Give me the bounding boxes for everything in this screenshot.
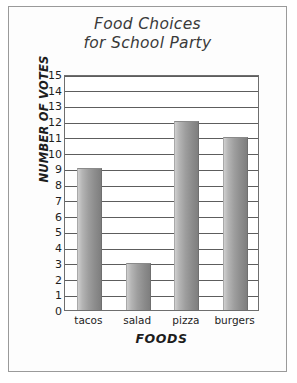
y-axis-tick-labels: 1514131211109876543210 [34, 75, 62, 311]
gridline [65, 76, 258, 77]
x-axis-tick-labels: tacossaladpizzaburgers [64, 314, 259, 330]
bar-salad [126, 263, 151, 310]
x-axis-title: FOODS [64, 331, 259, 346]
y-axis-tick-label: 6 [40, 210, 62, 223]
x-axis-tick-label: pizza [172, 314, 199, 326]
x-axis-tick-label: tacos [74, 314, 102, 326]
y-axis-tick-label: 7 [40, 194, 62, 207]
y-axis-tick-label: 8 [40, 179, 62, 192]
bar-burgers [223, 137, 248, 310]
gridline [65, 123, 258, 124]
y-axis-tick-label: 11 [40, 131, 62, 144]
y-axis-tick-label: 9 [40, 163, 62, 176]
y-axis-tick-label: 0 [40, 305, 62, 318]
bar-pizza [174, 121, 199, 310]
y-axis-tick-label: 12 [40, 116, 62, 129]
y-axis-tick-label: 1 [40, 289, 62, 302]
x-axis-tick-label: burgers [214, 314, 254, 326]
y-axis-tick-label: 3 [40, 257, 62, 270]
y-axis-tick-label: 5 [40, 226, 62, 239]
y-axis-tick-label: 15 [40, 69, 62, 82]
y-axis-tick-label: 14 [40, 84, 62, 97]
gridline [65, 91, 258, 92]
gridline [65, 107, 258, 108]
y-axis-tick-label: 4 [40, 242, 62, 255]
bar-tacos [77, 168, 102, 310]
y-axis-tick-label: 2 [40, 273, 62, 286]
plot-area [64, 75, 259, 311]
y-axis-tick-label: 13 [40, 100, 62, 113]
x-axis-tick-label: salad [123, 314, 151, 326]
worksheet-frame: Food Choices for School Party NUMBER OF … [8, 6, 287, 372]
y-axis-tick-label: 10 [40, 147, 62, 160]
